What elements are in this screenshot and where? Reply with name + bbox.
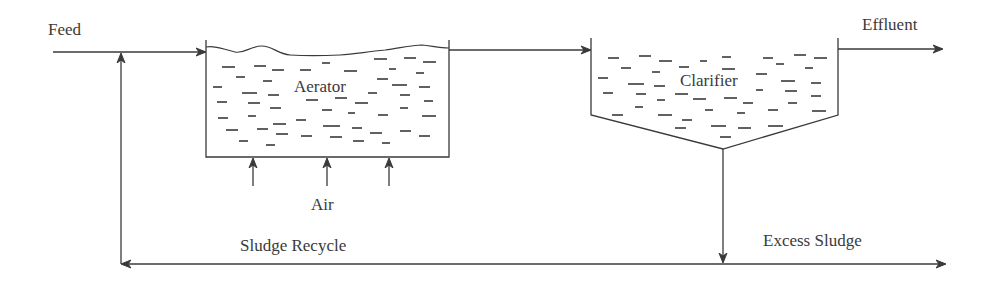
- sludge-recycle-label: Sludge Recycle: [240, 237, 346, 254]
- air-label: Air: [311, 196, 334, 213]
- clarifier-tank: [591, 38, 838, 149]
- excess-sludge-label: Excess Sludge: [763, 232, 862, 249]
- feed-label: Feed: [48, 21, 81, 38]
- aerator-liquid-dashes: [213, 58, 436, 145]
- aerator-tank: [206, 40, 449, 157]
- aerator-liquid-surface: [206, 45, 449, 56]
- process-flow-diagram: Feed Effluent Aerator Clarifier Air Slud…: [0, 0, 992, 283]
- air-inlet-arrows: [253, 159, 389, 186]
- aerator-label: Aerator: [294, 78, 346, 95]
- clarifier-liquid-dashes: [598, 55, 827, 137]
- clarifier-label: Clarifier: [680, 72, 738, 89]
- effluent-label: Effluent: [862, 16, 917, 33]
